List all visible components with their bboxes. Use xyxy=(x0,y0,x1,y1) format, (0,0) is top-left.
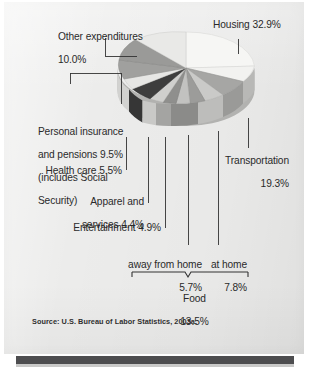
label-housing: Housing 32.9% xyxy=(213,19,281,31)
label-other-expenditures: Other expenditures 10.0% xyxy=(47,19,143,77)
label-food-away-l1: away from home xyxy=(128,259,202,270)
label-entertainment: Entertainment 4.9% xyxy=(0,222,161,234)
label-food-at-home-l1: at home xyxy=(211,259,247,270)
label-transportation-l2: 19.3% xyxy=(261,178,289,189)
source-note: Source: U.S. Bureau of Labor Statistics,… xyxy=(32,317,197,326)
label-food-total: Food 13.5% xyxy=(150,281,228,339)
label-transportation-l1: Transportation xyxy=(225,155,289,166)
leader-personal-insurance xyxy=(70,73,121,104)
footer-rule-shadow xyxy=(16,364,294,367)
label-other-expenditures-value: 10.0% xyxy=(58,54,86,65)
label-apparel-l1: Apparel and xyxy=(90,196,144,207)
footer-rule xyxy=(16,356,294,364)
label-personal-insurance-l2: and pensions 9.5% xyxy=(38,149,123,160)
label-other-expenditures-name: Other expenditures xyxy=(58,31,143,42)
slice-housing xyxy=(186,32,254,68)
label-food-total-l1: Food xyxy=(183,293,206,304)
label-health-care: Health care 5.5% xyxy=(0,165,122,177)
label-transportation: Transportation 19.3% xyxy=(196,143,289,201)
label-personal-insurance-l1: Personal insurance xyxy=(38,126,123,137)
figure-page: Other expenditures 10.0% Housing 32.9% P… xyxy=(0,0,312,385)
